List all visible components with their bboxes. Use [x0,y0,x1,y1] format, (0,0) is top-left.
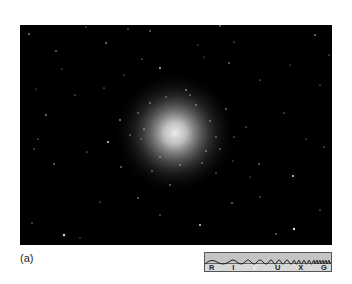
star-field [20,25,332,245]
band-u: U [275,263,280,272]
cluster-photo [20,25,332,245]
band-r: R [209,263,214,272]
band-labels: R I V U X G [205,263,331,272]
band-v-active: V [252,263,257,272]
spectrum-band-indicator: R I V U X G [204,252,332,272]
band-g: G [321,263,327,272]
figure-caption-label: (a) [20,252,33,264]
cluster-core [113,71,237,195]
band-x: X [298,263,303,272]
band-i: I [232,263,234,272]
